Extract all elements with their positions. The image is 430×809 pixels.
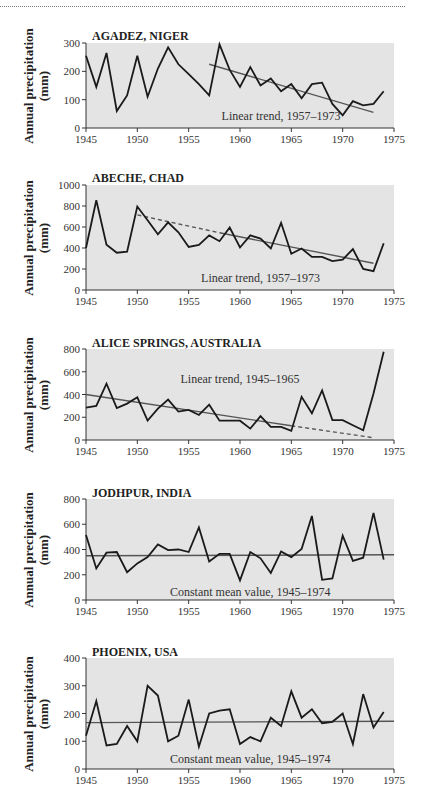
y-tick-label: 100 xyxy=(64,735,81,747)
x-tick-label: 1975 xyxy=(383,774,406,786)
trend-annotation: Constant mean value, 1945–1974 xyxy=(170,752,331,766)
chart-title: PHOENIX, USA xyxy=(92,645,178,659)
x-tick-label: 1970 xyxy=(332,774,355,786)
y-tick-label: 300 xyxy=(64,680,81,692)
x-tick-label: 1965 xyxy=(280,774,303,786)
y-tick-label: 400 xyxy=(64,652,81,664)
x-tick-label: 1960 xyxy=(229,774,252,786)
x-tick-label: 1945 xyxy=(75,774,98,786)
y-tick-label: 200 xyxy=(64,708,81,720)
line-chart-phoenix: 0100200300400194519501955196019651970197… xyxy=(0,0,430,809)
x-tick-label: 1950 xyxy=(126,774,149,786)
x-tick-label: 1955 xyxy=(178,774,201,786)
